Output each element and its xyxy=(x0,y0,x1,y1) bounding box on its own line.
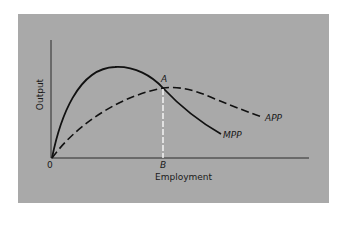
y-axis-label: Output xyxy=(36,79,45,110)
app-curve xyxy=(52,87,262,158)
mpp-curve xyxy=(52,67,221,158)
point-b-label: B xyxy=(160,161,166,170)
mpp-label: MPP xyxy=(223,131,242,140)
app-label: APP xyxy=(265,114,282,123)
x-axis-label: Employment xyxy=(155,173,212,182)
point-a-label: A xyxy=(161,75,167,84)
origin-label: 0 xyxy=(47,161,53,170)
